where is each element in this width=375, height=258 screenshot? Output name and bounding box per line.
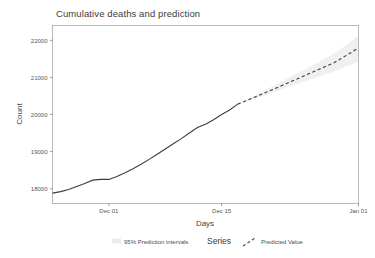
legend-label-predicted: Predicted Value	[261, 239, 304, 245]
x-tick-label: Dec 15	[212, 208, 232, 214]
chart-legend: 95% Prediction intervals Series Predicte…	[112, 236, 304, 246]
series-line-observed	[53, 104, 238, 193]
chart-figure: Cumulative deaths and prediction 1800019…	[0, 0, 375, 258]
x-axis-title: Days	[196, 219, 214, 228]
y-tick-label: 21000	[31, 75, 48, 81]
plot-frame	[53, 26, 359, 204]
x-axis-ticks: Dec 01Dec 15Jan 01	[99, 204, 368, 215]
y-axis-ticks: 1800019000200002100022000	[31, 38, 53, 192]
x-tick-label: Jan 01	[349, 208, 368, 214]
legend-label-interval: 95% Prediction intervals	[124, 239, 188, 245]
y-tick-label: 18000	[31, 186, 48, 192]
y-axis-title: Count	[15, 103, 24, 125]
x-tick-label: Dec 01	[99, 208, 119, 214]
legend-interval-swatch	[112, 239, 121, 244]
y-tick-label: 19000	[31, 149, 48, 155]
y-tick-label: 20000	[31, 112, 48, 118]
chart-canvas: 1800019000200002100022000 Dec 01Dec 15Ja…	[0, 0, 375, 258]
legend-title: Series	[207, 236, 231, 246]
y-tick-label: 22000	[31, 38, 48, 44]
prediction-interval-band	[238, 35, 359, 104]
legend-dashed-sample	[243, 238, 255, 246]
